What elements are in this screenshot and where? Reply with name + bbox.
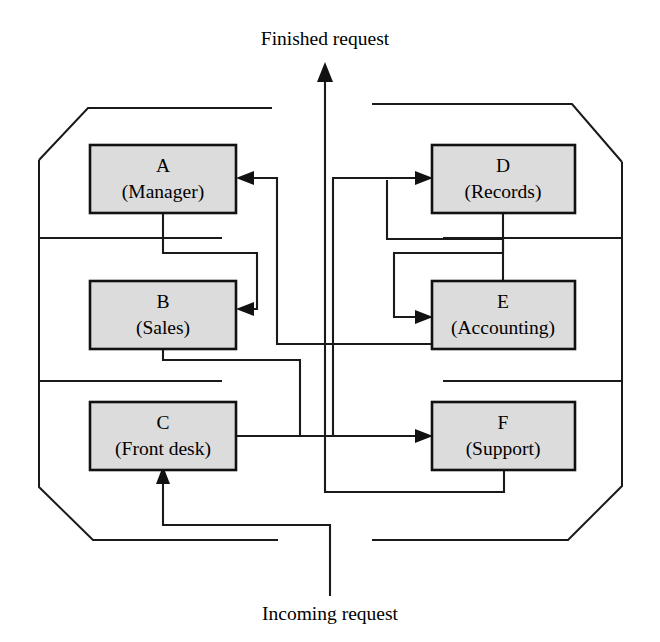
node-f-letter: F [498,412,509,433]
finished-request-label: Finished request [261,28,390,49]
connection-c-to-d [236,171,433,436]
node-c-front-desk[interactable]: C (Front desk) [90,402,236,470]
node-a-letter: A [156,155,170,176]
node-d-records[interactable]: D (Records) [432,145,575,213]
node-e-role: (Accounting) [451,317,555,339]
node-c-letter: C [156,412,169,433]
node-b-letter: B [156,291,169,312]
node-b-role: (Sales) [136,317,190,339]
node-d-letter: D [496,155,510,176]
incoming-request-label: Incoming request [262,603,399,624]
node-f-role: (Support) [466,438,541,460]
node-a-manager[interactable]: A (Manager) [90,145,236,213]
node-d-role: (Records) [465,181,542,203]
process-flow-diagram: A (Manager) B (Sales) C (Front desk) D (… [0,0,660,642]
node-e-letter: E [497,291,509,312]
node-c-role: (Front desk) [115,438,211,460]
node-b-sales[interactable]: B (Sales) [90,281,236,349]
node-e-accounting[interactable]: E (Accounting) [432,281,575,349]
arrowhead-into-e [415,310,433,324]
node-a-role: (Manager) [122,181,204,203]
arrowhead-into-d [415,171,433,185]
diagram-canvas: A (Manager) B (Sales) C (Front desk) D (… [0,0,660,642]
node-f-support[interactable]: F (Support) [432,402,575,470]
arrowhead-into-b [236,302,254,316]
arrowhead-into-a [236,171,254,185]
arrowhead-finished-request [317,62,333,82]
connection-incoming-to-c [156,466,330,596]
arrowhead-into-f [415,429,433,443]
